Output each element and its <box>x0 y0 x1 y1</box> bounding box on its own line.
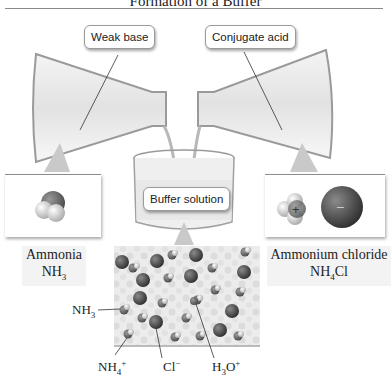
ammonia-name: Ammonia <box>22 246 86 263</box>
left-flask <box>33 54 166 162</box>
ammonium-chloride-formula: NH4Cl <box>267 263 391 286</box>
nh4-label: NH4+ <box>98 358 126 377</box>
ammonia-label: Ammonia NH3 <box>22 246 86 286</box>
cl-label: Cl− <box>163 358 180 375</box>
nh3-label: NH3 <box>72 302 95 320</box>
svg-text:−: − <box>336 199 344 215</box>
conjugate-acid-callout: Conjugate acid <box>205 25 296 49</box>
ammonium-chloride-name: Ammonium chloride <box>267 246 391 263</box>
ammonia-molecule-icon <box>5 175 101 237</box>
buffer-solution-callout: Buffer solution <box>143 187 230 211</box>
svg-text:+: + <box>292 202 300 217</box>
ammonia-formula: NH3 <box>22 263 86 286</box>
ammonium-chloride-label: Ammonium chloride NH4Cl <box>267 246 391 286</box>
ammonia-panel <box>5 174 101 237</box>
h3o-label: H3O+ <box>212 358 240 377</box>
ammonium-chloride-panel: + − <box>265 174 385 237</box>
right-flask <box>198 50 332 158</box>
ammonium-chloride-icon: + − <box>265 175 385 237</box>
solution-zoom-box <box>98 246 260 358</box>
weak-base-callout: Weak base <box>84 25 155 49</box>
